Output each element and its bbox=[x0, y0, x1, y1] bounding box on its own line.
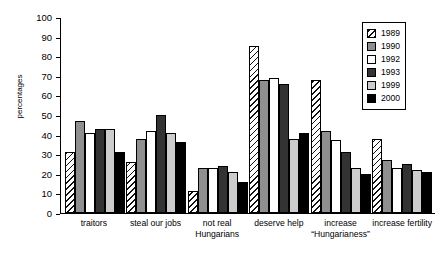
bar-group bbox=[188, 18, 248, 213]
bar bbox=[331, 140, 341, 213]
bar bbox=[85, 133, 95, 213]
y-axis-tick-label: 80 bbox=[41, 51, 52, 62]
bar bbox=[208, 168, 218, 213]
bar bbox=[412, 170, 422, 213]
x-axis-label: deserve help bbox=[248, 218, 310, 239]
legend-item: 2000 bbox=[367, 92, 400, 105]
bar bbox=[321, 131, 331, 213]
x-axis-labels: traitorssteal our jobsnot realHungarians… bbox=[60, 218, 435, 239]
bar bbox=[382, 160, 392, 213]
legend-item-label: 1989 bbox=[381, 29, 400, 38]
bar bbox=[392, 168, 402, 213]
legend-item: 1992 bbox=[367, 53, 400, 66]
x-axis-label: increase“Hungarianess” bbox=[310, 218, 372, 239]
x-axis-label: traitors bbox=[63, 218, 125, 239]
legend-swatch bbox=[367, 55, 376, 64]
bar bbox=[65, 152, 75, 213]
legend-item-label: 1999 bbox=[381, 81, 400, 90]
y-axis-tick-label: 40 bbox=[41, 130, 52, 141]
legend-swatch bbox=[367, 29, 376, 38]
x-axis-label: steal our jobs bbox=[125, 218, 187, 239]
bar bbox=[198, 168, 208, 213]
bar bbox=[156, 115, 166, 213]
bar bbox=[166, 133, 176, 213]
legend-item: 1989 bbox=[367, 27, 400, 40]
bar bbox=[311, 80, 321, 213]
bar-group bbox=[249, 18, 309, 213]
bar bbox=[105, 129, 115, 213]
legend-item-label: 1992 bbox=[381, 55, 400, 64]
legend-item: 1990 bbox=[367, 40, 400, 53]
bar bbox=[218, 166, 228, 213]
legend-swatch bbox=[367, 68, 376, 77]
y-axis-tick-label: 0 bbox=[47, 208, 52, 219]
legend-item-label: 1990 bbox=[381, 42, 400, 51]
bar bbox=[115, 152, 125, 213]
bar bbox=[238, 182, 248, 213]
y-axis-tick-label: 50 bbox=[41, 110, 52, 121]
legend-item: 1993 bbox=[367, 66, 400, 79]
bar bbox=[259, 80, 269, 213]
x-axis-label: not realHungarians bbox=[186, 218, 248, 239]
bar bbox=[146, 131, 156, 213]
legend-swatch bbox=[367, 42, 376, 51]
bar bbox=[249, 46, 259, 213]
y-axis-tick-label: 70 bbox=[41, 71, 52, 82]
bar bbox=[402, 164, 412, 213]
x-axis-label: increase fertility bbox=[371, 218, 433, 239]
bar-group bbox=[65, 18, 125, 213]
y-axis-tick-label: 10 bbox=[41, 188, 52, 199]
bar bbox=[299, 133, 309, 213]
y-axis-tick-label: 90 bbox=[41, 32, 52, 43]
legend-item-label: 1993 bbox=[381, 68, 400, 77]
bar bbox=[422, 172, 432, 213]
legend-item: 1999 bbox=[367, 79, 400, 92]
bar bbox=[361, 174, 371, 213]
bar bbox=[188, 191, 198, 213]
y-axis-ticks: 0102030405060708090100 bbox=[0, 0, 60, 279]
bar bbox=[95, 129, 105, 213]
y-axis-tick-label: 20 bbox=[41, 169, 52, 180]
bar bbox=[136, 139, 146, 213]
y-axis-tick-label: 100 bbox=[36, 12, 52, 23]
bar bbox=[341, 152, 351, 213]
legend-item-label: 2000 bbox=[381, 94, 400, 103]
bar bbox=[176, 142, 186, 213]
bar bbox=[279, 84, 289, 213]
legend-swatch bbox=[367, 94, 376, 103]
bar-chart: percentages 0102030405060708090100 trait… bbox=[0, 0, 445, 279]
bar bbox=[75, 121, 85, 213]
bar bbox=[289, 139, 299, 213]
bar-group bbox=[126, 18, 186, 213]
bar bbox=[228, 172, 238, 213]
y-axis-tick-mark bbox=[56, 214, 60, 215]
bar bbox=[372, 139, 382, 213]
y-axis-tick-label: 30 bbox=[41, 149, 52, 160]
legend: 198919901992199319992000 bbox=[362, 22, 406, 110]
bar bbox=[269, 78, 279, 213]
bar bbox=[351, 168, 361, 213]
y-axis-tick-label: 60 bbox=[41, 90, 52, 101]
legend-swatch bbox=[367, 81, 376, 90]
bar bbox=[126, 162, 136, 213]
